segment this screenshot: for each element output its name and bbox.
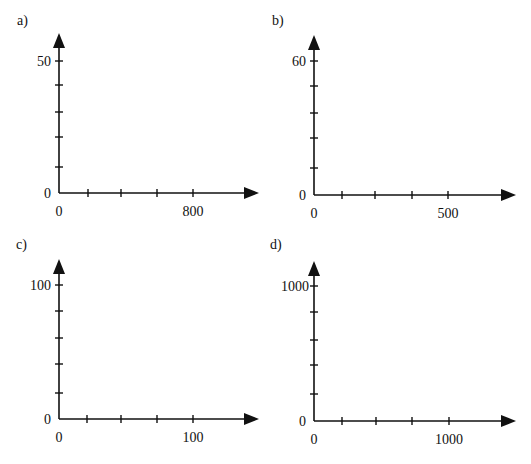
panel-c: c) 100 0 0 100 (16, 237, 259, 445)
y-arrow-icon (308, 35, 320, 50)
x-arrow-icon (501, 415, 516, 427)
x-axis-a: 0 800 (56, 187, 260, 219)
y-arrow-icon (53, 33, 65, 48)
y-max-label-a: 50 (37, 54, 51, 69)
panel-label-a: a) (17, 13, 28, 29)
y-axis-c: 100 0 (30, 259, 65, 427)
x-origin-label-c: 0 (56, 430, 63, 445)
y-origin-label-a: 0 (44, 186, 51, 201)
x-axis-d: 0 1000 (311, 415, 517, 447)
y-arrow-icon (308, 261, 320, 276)
panel-d: d) 1000 0 0 1000 (270, 237, 516, 447)
y-origin-label-b: 0 (299, 188, 306, 203)
y-axis-a: 50 0 (37, 33, 65, 201)
y-origin-label-d: 0 (299, 414, 306, 429)
y-axis-d: 1000 0 (281, 261, 320, 429)
y-max-label-c: 100 (30, 278, 51, 293)
x-arrow-icon (501, 189, 516, 201)
y-max-label-b: 60 (292, 54, 306, 69)
panel-a: a) 50 0 0 800 (17, 13, 259, 219)
x-origin-label-b: 0 (311, 206, 318, 221)
panel-label-d: d) (270, 237, 282, 253)
x-origin-label-d: 0 (311, 432, 318, 447)
x-max-label-d: 1000 (435, 432, 463, 447)
y-axis-b: 60 0 (292, 35, 320, 203)
x-axis-c: 0 100 (56, 413, 260, 445)
x-max-label-c: 100 (183, 430, 204, 445)
x-max-label-b: 500 (438, 206, 459, 221)
y-arrow-icon (53, 259, 65, 274)
x-max-label-a: 800 (183, 204, 204, 219)
panel-b: b) 60 0 0 500 (272, 13, 516, 221)
x-arrow-icon (244, 187, 259, 199)
axes-diagram: a) 50 0 0 800 (0, 0, 531, 464)
x-origin-label-a: 0 (56, 204, 63, 219)
panel-label-c: c) (16, 237, 27, 253)
x-axis-b: 0 500 (311, 189, 517, 221)
panel-label-b: b) (272, 13, 284, 29)
y-max-label-d: 1000 (281, 279, 309, 294)
y-origin-label-c: 0 (44, 412, 51, 427)
x-arrow-icon (244, 413, 259, 425)
